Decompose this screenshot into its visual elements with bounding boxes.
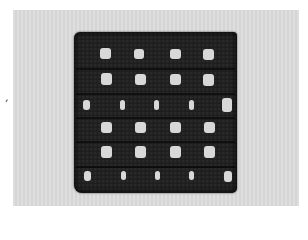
row-divider bbox=[76, 141, 235, 143]
mesh-hole bbox=[204, 122, 215, 133]
mesh-hole bbox=[203, 74, 214, 86]
mesh-slit bbox=[224, 171, 232, 182]
mesh-hole bbox=[170, 74, 181, 85]
mesh-slit bbox=[154, 100, 159, 110]
row-divider bbox=[76, 166, 235, 168]
mesh-slit bbox=[189, 100, 194, 110]
mesh-hole bbox=[135, 74, 146, 85]
mesh-slit bbox=[120, 100, 125, 110]
row-divider bbox=[76, 117, 235, 119]
mesh-hole bbox=[170, 122, 181, 133]
mesh-slit bbox=[83, 100, 90, 110]
mesh-hole bbox=[135, 146, 146, 158]
mesh-hole bbox=[134, 49, 144, 59]
mesh-slit bbox=[84, 171, 91, 181]
mesh-slit bbox=[121, 171, 126, 180]
mesh-hole bbox=[101, 122, 112, 133]
row-divider bbox=[76, 68, 235, 70]
mesh-hole bbox=[170, 146, 181, 158]
mesh-slit bbox=[155, 171, 160, 180]
row-divider bbox=[76, 93, 235, 95]
mesh-hole bbox=[101, 146, 112, 158]
mesh-hole bbox=[170, 49, 181, 59]
mesh-hole bbox=[101, 73, 112, 85]
stray-mark bbox=[6, 99, 11, 104]
mesh-hole bbox=[100, 48, 111, 59]
mesh-hole bbox=[135, 122, 146, 133]
mesh-hole bbox=[203, 49, 214, 60]
mesh-slit bbox=[222, 98, 232, 112]
mesh-slit bbox=[189, 171, 194, 180]
mesh-hole bbox=[204, 146, 215, 158]
